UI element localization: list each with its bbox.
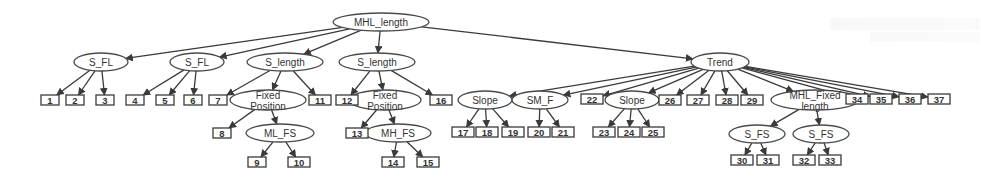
node-label: Fixed	[256, 90, 280, 101]
leaf-label: 27	[693, 95, 704, 106]
edge-arrow	[770, 109, 799, 126]
leaf-label: 6	[190, 95, 195, 106]
leaf-17: 17	[452, 127, 474, 138]
edge-arrow	[378, 31, 380, 53]
edge-arrow	[194, 71, 197, 95]
node-label: S_FL	[185, 57, 209, 68]
leaf-label: 1	[47, 95, 53, 106]
node-mhfs: MH_FS	[365, 124, 431, 142]
leaf-label: 15	[423, 157, 434, 168]
edge-arrow	[629, 109, 631, 127]
leaf-34: 34	[846, 94, 868, 105]
edge-arrow	[493, 109, 509, 127]
node-label: S_FS	[808, 129, 833, 140]
node-label: S_length	[265, 57, 304, 68]
edge-arrow	[379, 71, 383, 90]
node-sfs2: S_FS	[793, 125, 849, 143]
leaf-label: 29	[747, 95, 758, 106]
leaf-label: 16	[436, 95, 447, 106]
node-smf: SM_F	[512, 91, 568, 109]
edge-arrow	[486, 109, 487, 127]
leaf-33: 33	[819, 155, 841, 166]
edge-arrow	[546, 109, 559, 127]
edge-arrow	[229, 109, 255, 128]
leaf-label: 30	[737, 155, 748, 166]
node-label: S_length	[357, 57, 396, 68]
leaf-10: 10	[288, 157, 310, 168]
leaf-21: 21	[552, 127, 574, 138]
leaf-11: 11	[309, 95, 331, 106]
node-label: MHL_length	[354, 17, 408, 28]
edge-arrow	[169, 71, 189, 95]
node-label: Position	[250, 101, 286, 112]
leaf-label: 19	[508, 127, 519, 138]
leaf-25: 25	[642, 127, 664, 138]
node-label: Fixed	[373, 90, 397, 101]
leaf-14: 14	[382, 157, 404, 168]
leaf-label: 10	[294, 157, 305, 168]
edge-arrow	[407, 142, 423, 157]
leaf-label: 20	[534, 127, 545, 138]
leaf-13: 13	[346, 128, 368, 139]
leaf-12: 12	[336, 95, 358, 106]
node-mlfs: ML_FS	[246, 124, 314, 142]
edge-arrow	[261, 142, 273, 157]
leaf-label: 5	[162, 95, 168, 106]
leaf-label: 33	[825, 155, 836, 166]
edge-arrow	[638, 109, 650, 127]
node-label: length	[801, 101, 828, 112]
edge-arrow	[57, 70, 90, 95]
edge-arrow	[824, 143, 828, 155]
leaf-3: 3	[96, 95, 114, 106]
node-fixpos2: FixedPosition	[349, 90, 421, 112]
edge-arrow	[286, 142, 296, 157]
leaf-label: 31	[763, 155, 774, 166]
leaf-label: 12	[342, 95, 353, 106]
leaf-label: 14	[388, 157, 399, 168]
edge-arrow	[394, 142, 397, 157]
edge-arrow	[539, 109, 540, 127]
node-label: Trend	[707, 57, 733, 68]
edge-arrow	[272, 110, 277, 124]
node-slope1: Slope	[458, 91, 512, 109]
node-slen1: S_length	[247, 53, 323, 71]
leaf-label: 28	[722, 95, 733, 106]
leaf-2: 2	[66, 95, 84, 106]
leaf-18: 18	[476, 127, 498, 138]
edge-arrow	[361, 110, 376, 128]
leaf-28: 28	[716, 95, 738, 106]
edge-arrow	[102, 71, 105, 95]
edge-arrow	[761, 143, 766, 155]
leaf-15: 15	[417, 157, 439, 168]
leaf-6: 6	[184, 95, 202, 106]
edge-arrow	[722, 71, 726, 95]
leaf-16: 16	[430, 95, 452, 106]
node-label: ML_FS	[264, 128, 297, 139]
leaf-label: 32	[799, 155, 810, 166]
leaf-29: 29	[741, 95, 763, 106]
node-root: MHL_length	[333, 13, 429, 31]
leaf-label: 11	[315, 95, 326, 106]
leaf-label: 35	[876, 94, 887, 105]
leaf-1: 1	[41, 95, 59, 106]
leaf-20: 20	[528, 127, 550, 138]
leaf-9: 9	[248, 157, 266, 168]
edge-arrow	[466, 109, 479, 127]
leaf-label: 21	[558, 127, 569, 138]
leaf-label: 26	[665, 95, 676, 106]
leaf-label: 2	[72, 95, 77, 106]
node-label: Slope	[472, 95, 498, 106]
leaf-label: 36	[905, 94, 916, 105]
edge-arrow	[293, 71, 315, 95]
leaf-35: 35	[870, 94, 892, 105]
node-sfl2: S_FL	[170, 53, 224, 71]
leaf-31: 31	[757, 155, 779, 166]
leaf-22: 22	[581, 94, 603, 105]
leaf-label: 13	[352, 128, 363, 139]
edge-arrow	[807, 143, 815, 155]
leaf-label: 7	[215, 95, 220, 106]
leaf-label: 22	[587, 94, 598, 105]
leaf-4: 4	[126, 95, 144, 106]
leaf-8: 8	[213, 128, 231, 139]
leaf-label: 25	[648, 127, 659, 138]
